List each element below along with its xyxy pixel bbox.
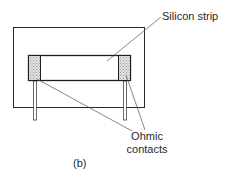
ohmic-label-line2: contacts [125,143,169,156]
leader-ohmic-left [37,79,132,131]
ohmic-contacts-label: Ohmic contacts [125,130,169,156]
silicon-strip [29,56,131,81]
lead-right [124,81,127,120]
leader-silicon-strip [107,17,161,61]
ohmic-contact-right [119,56,131,80]
figure-caption: (b) [73,157,86,169]
ohmic-label-line1: Ohmic [125,130,169,143]
leader-ohmic-right [126,75,145,130]
ohmic-contact-left [29,56,41,80]
silicon-strip-label: Silicon strip [162,10,218,22]
diagram-canvas: Silicon strip Ohmic contacts (b) [0,0,229,184]
lead-left [34,81,37,120]
diagram-drawing [0,0,229,184]
